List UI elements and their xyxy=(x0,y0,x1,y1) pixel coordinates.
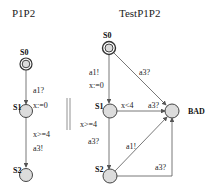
edge-label: x:=0 xyxy=(33,101,48,110)
state-test-s2: S2 xyxy=(95,165,117,183)
svg-text:S1: S1 xyxy=(13,103,21,112)
automata-diagram: P1P2 S0 S1 S2 a1? x:=0 x>=4 a3! TestP1P2… xyxy=(0,0,219,195)
state-p1p2-s1: S1 xyxy=(13,103,33,118)
svg-text:S0: S0 xyxy=(20,48,28,57)
state-test-s1: S1 xyxy=(95,102,117,118)
edge-test-s0-bad xyxy=(114,53,166,105)
state-p1p2-s2: S2 xyxy=(13,166,33,182)
state-test-bad: BAD xyxy=(165,104,205,118)
svg-text:S1: S1 xyxy=(95,102,103,111)
state-p1p2-s0: S0 xyxy=(20,48,32,70)
edge-label: a3! xyxy=(33,144,43,153)
edge-label: a3? xyxy=(155,163,167,172)
automaton-title-p1p2: P1P2 xyxy=(12,7,35,19)
svg-text:S0: S0 xyxy=(103,31,111,40)
svg-text:BAD: BAD xyxy=(188,107,205,116)
state-test-s0: S0 xyxy=(103,31,116,55)
automaton-title-testp1p2: TestP1P2 xyxy=(119,7,160,19)
edge-label: x>=4 xyxy=(80,120,97,129)
edge-label: a1! xyxy=(89,68,99,77)
edge-label: a1! xyxy=(126,142,136,151)
edge-label: a3? xyxy=(139,68,151,77)
edge-label: a3? xyxy=(88,137,100,146)
parallel-separator xyxy=(67,98,70,130)
svg-text:S2: S2 xyxy=(95,165,103,174)
edge-label: x<4 xyxy=(121,101,134,110)
edge-label: a3? xyxy=(148,101,160,110)
edge-label: x:=0 xyxy=(89,81,104,90)
svg-text:S2: S2 xyxy=(13,166,21,175)
edge-label: a1? xyxy=(33,86,45,95)
edge-label: x>=4 xyxy=(33,130,50,139)
